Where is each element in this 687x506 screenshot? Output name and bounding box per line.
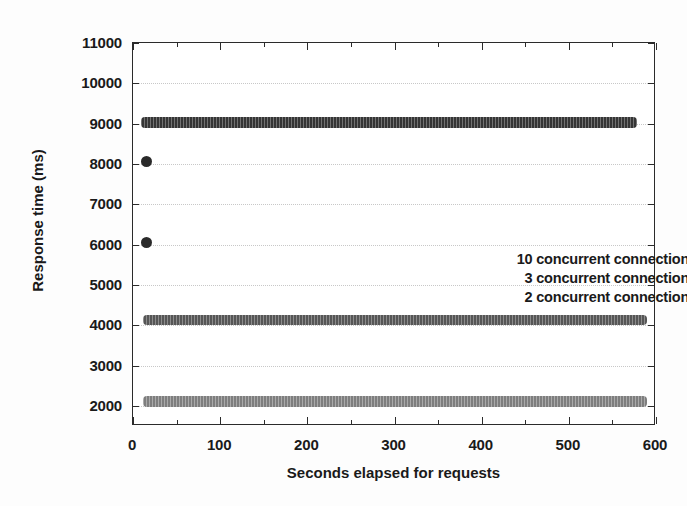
y-axis-tick: [133, 366, 139, 367]
x-axis-tick: [438, 420, 439, 424]
series-band-2-concurrent-connections: [143, 396, 647, 407]
y-axis-tick-label: 6000: [89, 235, 122, 252]
x-axis-tick: [482, 417, 483, 424]
y-axis-tick-label: 10000: [81, 74, 122, 91]
y-axis-tick: [648, 164, 654, 165]
y-axis-tick: [133, 406, 139, 407]
gridline: [133, 164, 654, 165]
x-axis-tick: [351, 420, 352, 424]
x-axis-tick: [177, 420, 178, 424]
y-axis-tick: [133, 325, 139, 326]
x-axis-tick: [307, 43, 308, 50]
y-axis-tick: [648, 83, 654, 84]
y-axis-tick: [648, 406, 654, 407]
x-axis-tick: [438, 43, 439, 47]
legend-item: 10 concurrent connections: [503, 249, 687, 268]
x-axis-tick: [351, 43, 352, 47]
x-axis-tick: [264, 420, 265, 424]
y-axis-tick-label: 3000: [89, 356, 122, 373]
x-axis-tick-label: 100: [207, 436, 231, 453]
y-axis-tick-label: 4000: [89, 316, 122, 333]
x-axis-tick-label: 200: [294, 436, 318, 453]
y-axis-tick: [133, 164, 139, 165]
x-axis-tick: [307, 417, 308, 424]
x-axis-tick: [482, 43, 483, 50]
y-axis-tick: [648, 204, 654, 205]
x-axis-tick: [133, 43, 134, 50]
legend-item: 2 concurrent connections: [503, 287, 687, 306]
y-axis-tick: [133, 83, 139, 84]
legend-item-label: 3 concurrent connections: [525, 270, 687, 286]
x-axis-tick: [395, 43, 396, 50]
y-axis-tick-label: 7000: [89, 195, 122, 212]
legend-item-label: 2 concurrent connections: [525, 289, 687, 305]
plot-area: 10 concurrent connections 3 concurrent c…: [132, 42, 655, 425]
y-axis-tick: [648, 325, 654, 326]
y-axis-tick: [648, 366, 654, 367]
x-axis-tick: [220, 417, 221, 424]
gridline: [133, 204, 654, 205]
x-axis-tick-label: 400: [468, 436, 492, 453]
x-axis-tick-label: 500: [556, 436, 580, 453]
gridline: [133, 366, 654, 367]
x-axis-tick: [220, 43, 221, 50]
outlier-point-8000ms: [141, 156, 152, 167]
chart-figure: Response time (ms) 110001000090008000700…: [0, 0, 687, 506]
series-band-3-concurrent-connections: [143, 315, 647, 325]
x-axis-tick: [525, 43, 526, 47]
gridline: [133, 325, 654, 326]
x-axis-tick: [656, 43, 657, 50]
x-axis-tick: [264, 43, 265, 47]
x-axis-tick-label: 300: [381, 436, 405, 453]
gridline: [133, 245, 654, 246]
y-axis-tick: [648, 245, 654, 246]
y-axis-tick-label: 11000: [82, 34, 122, 51]
x-axis-tick: [177, 43, 178, 47]
x-axis-tick: [525, 420, 526, 424]
chart-legend: 10 concurrent connections 3 concurrent c…: [503, 249, 687, 306]
x-axis-tick-labels: 0100200300400500600: [132, 436, 655, 458]
y-axis-tick-label: 2000: [89, 396, 122, 413]
x-axis-title: Seconds elapsed for requests: [132, 464, 655, 481]
x-axis-tick: [612, 43, 613, 47]
y-axis-tick-label: 8000: [89, 154, 122, 171]
legend-item: 3 concurrent connections: [503, 268, 687, 287]
x-axis-tick: [612, 420, 613, 424]
y-axis-tick: [648, 43, 654, 44]
x-axis-tick: [656, 417, 657, 424]
y-axis-tick: [133, 124, 139, 125]
x-axis-tick-label: 600: [643, 436, 667, 453]
gridline: [133, 83, 654, 84]
y-axis-tick: [133, 245, 139, 246]
y-axis-tick-labels: 1100010000900080007000600050004000300020…: [0, 42, 122, 425]
series-band-10-concurrent-connections: [141, 117, 637, 128]
legend-item-label: 10 concurrent connections: [517, 251, 687, 267]
y-axis-tick: [648, 124, 654, 125]
x-axis-tick: [569, 43, 570, 50]
x-axis-tick: [395, 417, 396, 424]
x-axis-tick: [133, 417, 134, 424]
y-axis-tick: [133, 285, 139, 286]
y-axis-tick-label: 5000: [89, 275, 122, 292]
y-axis-tick: [133, 204, 139, 205]
y-axis-tick-label: 9000: [89, 114, 122, 131]
x-axis-tick-label: 0: [128, 436, 136, 453]
x-axis-tick: [569, 417, 570, 424]
outlier-point-6000ms: [141, 237, 152, 248]
